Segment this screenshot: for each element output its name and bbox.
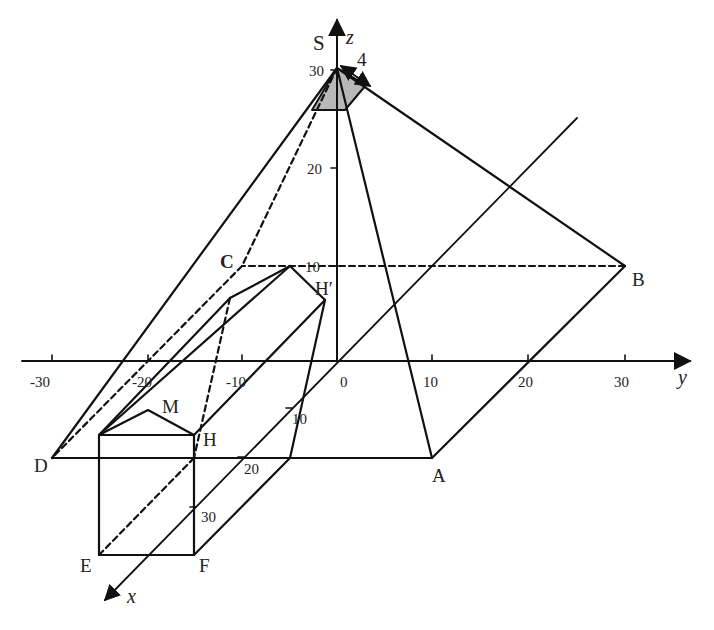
edge-SD	[52, 68, 337, 458]
svg-text:10: 10	[305, 259, 320, 275]
svg-text:20: 20	[244, 461, 259, 477]
svg-text:30: 30	[309, 63, 324, 79]
house-back-wall-right	[290, 300, 325, 458]
x-axis	[105, 118, 577, 600]
label-H-prime: H′	[315, 278, 333, 299]
house-edge-F-bottom	[194, 458, 290, 555]
x-axis-label: x	[126, 585, 136, 607]
edge-SC	[242, 68, 337, 266]
label-H: H	[203, 429, 217, 450]
svg-text:30: 30	[614, 374, 629, 390]
y-axis-label: y	[676, 366, 687, 389]
svg-text:-20: -20	[132, 374, 152, 390]
edge-SB	[337, 68, 625, 266]
y-tick-labels: -30 -20 -10 0 10 20 30	[30, 374, 629, 390]
x-tick-labels: 10 20 30	[201, 411, 307, 525]
pyramid-diagram: -30 -20 -10 0 10 20 30 10 20 30 10 20 30…	[0, 0, 714, 630]
svg-text:-30: -30	[30, 374, 50, 390]
label-M: M	[162, 396, 179, 417]
edge-SA	[337, 68, 432, 458]
house-edge-E-hidden	[99, 458, 194, 555]
svg-text:20: 20	[307, 161, 322, 177]
svg-text:0: 0	[340, 374, 348, 390]
label-B: B	[632, 269, 645, 290]
z-axis-label: z	[345, 26, 354, 48]
svg-text:30: 30	[201, 509, 216, 525]
svg-text:10: 10	[423, 374, 438, 390]
label-C: C	[220, 251, 234, 272]
svg-text:10: 10	[292, 411, 307, 427]
label-F: F	[199, 555, 210, 576]
label-A: A	[432, 465, 446, 486]
label-D: D	[34, 455, 48, 476]
svg-text:-10: -10	[226, 374, 246, 390]
svg-text:20: 20	[518, 374, 533, 390]
house-edge-ridge-visible	[99, 266, 290, 435]
label-E: E	[80, 555, 92, 576]
house-front-face	[99, 410, 194, 555]
label-dimension-4: 4	[357, 49, 367, 70]
label-S: S	[313, 31, 325, 55]
